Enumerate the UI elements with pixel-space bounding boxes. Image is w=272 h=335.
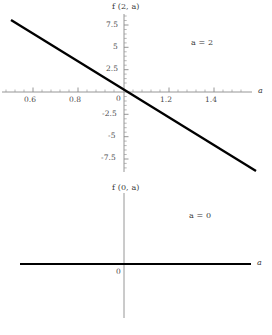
annotation-top: a = 2 xyxy=(191,38,213,47)
x-tick-label-top-2: 1.2 xyxy=(160,95,172,104)
y-axis-label-bottom: f (0, a) xyxy=(112,183,140,192)
figure-container: f (2, a) a = 2 a 0.6 0.8 1.2 1.4 0 7.5 5… xyxy=(0,0,272,335)
plot-top-canvas xyxy=(0,0,272,180)
x-axis-label-top: a xyxy=(258,86,263,95)
y-tick-label-top-4: -5 xyxy=(108,131,116,140)
x-tick-label-top-0: 0.6 xyxy=(24,95,36,104)
plot-bottom-canvas xyxy=(0,180,272,335)
plot-panel-top: f (2, a) a = 2 a 0.6 0.8 1.2 1.4 0 7.5 5… xyxy=(0,0,272,180)
y-tick-label-top-2: 2.5 xyxy=(106,64,118,73)
origin-label-top: 0 xyxy=(116,94,121,103)
curve-f2a xyxy=(11,20,256,171)
x-tick-label-top-1: 0.8 xyxy=(69,95,81,104)
x-axis-label-bottom: a xyxy=(257,258,262,267)
y-tick-label-top-5: -7.5 xyxy=(101,153,116,162)
origin-label-bottom: 0 xyxy=(116,267,121,276)
y-tick-label-top-0: 7.5 xyxy=(106,20,118,29)
y-tick-label-top-1: 5 xyxy=(113,42,118,51)
x-tick-label-top-3: 1.4 xyxy=(205,95,217,104)
plot-panel-bottom: f (0, a) a = 0 a 0 xyxy=(0,180,272,335)
annotation-bottom: a = 0 xyxy=(189,211,211,220)
y-tick-label-top-3: -2.5 xyxy=(102,109,117,118)
y-axis-label-top: f (2, a) xyxy=(112,2,140,11)
